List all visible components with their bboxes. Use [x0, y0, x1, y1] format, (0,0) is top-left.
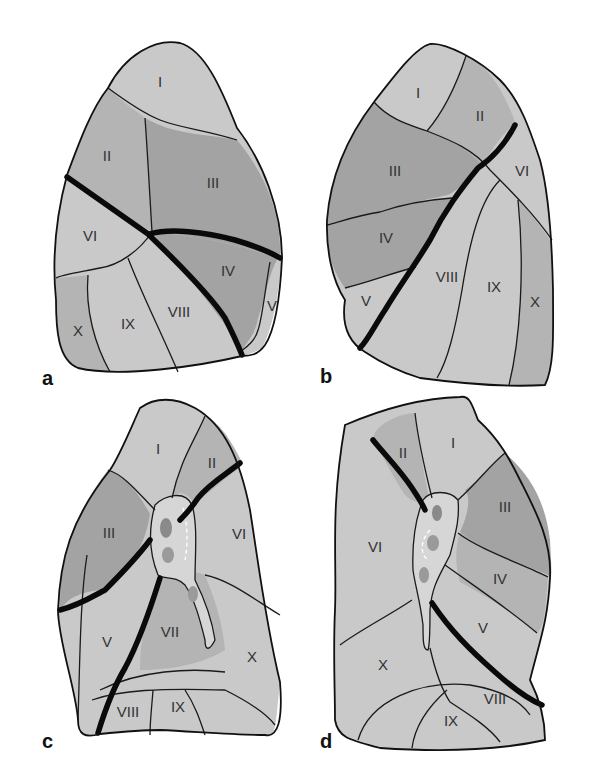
vessel-c-2: [162, 547, 174, 563]
label-d-III: III: [499, 498, 512, 515]
panel-label-c: c: [42, 730, 53, 752]
label-c-II: II: [208, 454, 216, 471]
vessel-c-3: [188, 586, 198, 602]
label-a-V: V: [267, 297, 277, 314]
label-b-X: X: [530, 293, 540, 310]
label-d-VI: VI: [368, 538, 382, 555]
label-c-III: III: [103, 524, 116, 541]
label-a-III: III: [207, 174, 220, 191]
label-c-V: V: [102, 633, 112, 650]
label-a-II: II: [103, 147, 111, 164]
label-a-IX: IX: [121, 315, 135, 332]
label-c-IX: IX: [171, 698, 185, 715]
label-b-I: I: [416, 84, 420, 101]
label-c-VII: VII: [161, 623, 179, 640]
label-c-VI: VI: [232, 525, 246, 542]
panel-b: I II III IV V VI VIII IX X b: [320, 44, 553, 387]
label-b-IV: IV: [379, 229, 393, 246]
label-b-III: III: [389, 162, 402, 179]
label-a-X: X: [73, 322, 83, 339]
panel-label-d: d: [320, 730, 332, 752]
label-c-VIII: VIII: [117, 703, 140, 720]
label-d-I: I: [451, 434, 455, 451]
label-c-I: I: [156, 440, 160, 457]
panel-c: I II III V VI VII VIII IX X c: [42, 400, 281, 752]
panel-label-b: b: [320, 365, 332, 387]
panel-d: I II III IV V VI VIII IX X d: [320, 397, 551, 752]
label-b-II: II: [476, 107, 484, 124]
panel-a: I II III IV V VI VIII IX X a: [42, 42, 282, 389]
vessel-d-1: [432, 505, 442, 521]
label-d-IX: IX: [444, 712, 458, 729]
vessel-d-2: [427, 535, 439, 551]
label-d-V: V: [478, 619, 488, 636]
vessel-c-1: [160, 518, 172, 538]
label-d-IV: IV: [493, 570, 507, 587]
panel-label-a: a: [42, 367, 54, 389]
label-b-IX: IX: [487, 278, 501, 295]
label-b-V: V: [361, 292, 371, 309]
label-a-I: I: [158, 73, 162, 90]
label-c-X: X: [247, 648, 257, 665]
label-a-VIII: VIII: [168, 303, 191, 320]
label-b-VI: VI: [515, 162, 529, 179]
lung-segments-figure: I II III IV V VI VIII IX X a I II III IV…: [0, 0, 596, 784]
label-a-VI: VI: [83, 227, 97, 244]
label-d-II: II: [399, 444, 407, 461]
label-a-IV: IV: [221, 262, 235, 279]
label-d-X: X: [378, 656, 388, 673]
label-d-VIII: VIII: [484, 690, 507, 707]
label-b-VIII: VIII: [436, 268, 459, 285]
vessel-d-3: [419, 567, 429, 583]
